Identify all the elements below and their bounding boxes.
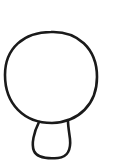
sketch-canvas — [0, 0, 121, 166]
background — [0, 0, 121, 166]
